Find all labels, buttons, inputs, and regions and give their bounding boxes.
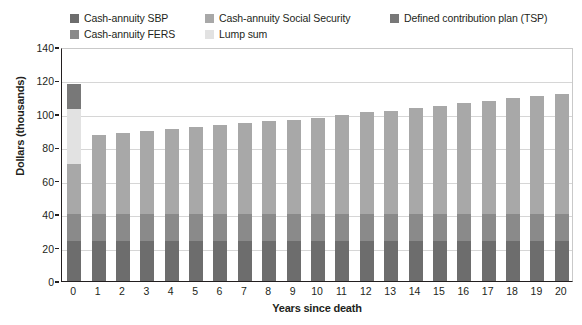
bar-column — [506, 98, 520, 281]
x-tick-label: 15 — [426, 285, 452, 297]
bar-segment — [457, 103, 471, 214]
bar-column — [555, 94, 569, 281]
bar-segment — [140, 241, 154, 281]
bar-column — [213, 125, 227, 281]
bar-segment — [506, 241, 520, 281]
x-tick-label: 6 — [206, 285, 232, 297]
bar-segment — [555, 241, 569, 281]
y-tick-label: 140 — [36, 43, 54, 53]
y-tick-mark — [55, 47, 59, 48]
x-tick-label: 5 — [182, 285, 208, 297]
bar-segment — [67, 109, 81, 164]
bar-column — [287, 120, 301, 281]
legend-label-cash-annuity-sbp: Cash-annuity SBP — [84, 13, 168, 24]
bar-column — [433, 106, 447, 281]
bar-segment — [189, 241, 203, 281]
bar-column — [92, 135, 106, 281]
bar-column — [67, 84, 81, 281]
bar-segment — [213, 241, 227, 281]
bar-segment — [238, 214, 252, 241]
x-tick-label: 18 — [499, 285, 525, 297]
bar-column — [482, 101, 496, 282]
bar-segment — [189, 214, 203, 241]
bar-column — [311, 118, 325, 281]
bar-segment — [311, 241, 325, 281]
bar-segment — [409, 108, 423, 214]
bar-segment — [238, 123, 252, 214]
y-tick-mark — [55, 181, 59, 182]
y-tick-label: 60 — [42, 177, 54, 187]
x-tick-label: 4 — [158, 285, 184, 297]
bar-column — [262, 121, 276, 281]
bar-segment — [67, 164, 81, 214]
bar-segment — [189, 127, 203, 214]
x-tick-label: 3 — [133, 285, 159, 297]
y-tick-label: 40 — [42, 210, 54, 220]
legend-swatch-icon-cash-annuity-social-security — [205, 14, 214, 23]
bar-segment — [287, 241, 301, 281]
bar-segment — [92, 241, 106, 281]
bar-segment — [165, 129, 179, 214]
y-tick-label: 100 — [36, 110, 54, 120]
x-tick-label: 12 — [353, 285, 379, 297]
bar-segment — [530, 96, 544, 214]
legend-swatch-icon-defined-contribution-plan — [390, 14, 399, 23]
bar-segment — [457, 214, 471, 241]
bar-segment — [482, 241, 496, 281]
plot-area — [61, 48, 573, 282]
x-tick-label: 2 — [109, 285, 135, 297]
bar-series-container — [62, 49, 572, 281]
legend-label-lump-sum: Lump sum — [219, 29, 267, 40]
bar-segment — [287, 120, 301, 214]
y-tick-label: 20 — [42, 244, 54, 254]
x-tick-label: 8 — [255, 285, 281, 297]
bar-segment — [457, 241, 471, 281]
bar-segment — [384, 111, 398, 215]
legend-item-cash-annuity-fers: Cash-annuity FERS — [70, 27, 175, 42]
bar-column — [165, 129, 179, 281]
y-tick-label: 80 — [42, 143, 54, 153]
legend-row-1: Cash-annuity SBP Cash-annuity Social Sec… — [70, 11, 575, 26]
bar-segment — [165, 214, 179, 241]
x-tick-label: 7 — [231, 285, 257, 297]
bar-segment — [116, 133, 130, 214]
legend-swatch-icon-lump-sum — [205, 30, 214, 39]
x-tick-label: 16 — [450, 285, 476, 297]
bar-segment — [67, 241, 81, 281]
legend-label-defined-contribution-plan: Defined contribution plan (TSP) — [404, 13, 547, 24]
bar-segment — [555, 94, 569, 214]
bar-segment — [92, 214, 106, 241]
bar-segment — [116, 241, 130, 281]
legend-item-defined-contribution-plan: Defined contribution plan (TSP) — [390, 11, 547, 26]
bar-segment — [311, 214, 325, 241]
bar-segment — [433, 214, 447, 241]
bar-segment — [555, 214, 569, 241]
bar-column — [335, 115, 349, 281]
x-tick-label: 0 — [60, 285, 86, 297]
x-tick-label: 14 — [402, 285, 428, 297]
bar-segment — [213, 125, 227, 214]
bar-segment — [262, 241, 276, 281]
bar-segment — [213, 214, 227, 241]
y-tick-label: 120 — [36, 76, 54, 86]
bar-segment — [335, 241, 349, 281]
legend-swatch-icon-cash-annuity-fers — [70, 30, 79, 39]
x-axis: 01234567891011121314151617181920 — [61, 283, 573, 301]
bar-segment — [116, 214, 130, 241]
bar-segment — [262, 121, 276, 214]
y-tick-mark — [55, 248, 59, 249]
bar-segment — [409, 214, 423, 241]
bar-segment — [311, 118, 325, 214]
bar-segment — [530, 214, 544, 241]
bar-column — [116, 133, 130, 281]
x-tick-label: 9 — [280, 285, 306, 297]
legend-swatch-icon-cash-annuity-sbp — [70, 14, 79, 23]
bar-segment — [262, 214, 276, 241]
y-tick-mark — [55, 114, 59, 115]
bar-column — [189, 127, 203, 281]
bar-segment — [506, 98, 520, 214]
bar-segment — [384, 214, 398, 241]
bar-column — [360, 112, 374, 281]
bar-segment — [506, 214, 520, 241]
bar-segment — [482, 101, 496, 215]
